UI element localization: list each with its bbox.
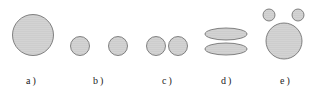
panel-label-b: b ) — [93, 75, 103, 86]
shape-diagram — [0, 0, 318, 96]
panel-label-a: a ) — [26, 75, 36, 86]
small-circle-left — [71, 37, 90, 56]
ellipse-bottom — [205, 43, 247, 55]
head-circle — [266, 23, 302, 59]
adjacent-circle-left — [147, 37, 166, 56]
panel-label-c: c ) — [162, 75, 172, 86]
small-circle-right — [109, 37, 128, 56]
adjacent-circle-right — [169, 37, 188, 56]
panel-d-shapes — [205, 28, 247, 55]
panel-label-e: e ) — [280, 75, 290, 86]
ellipse-top — [205, 28, 247, 40]
panel-label-d: d ) — [221, 75, 231, 86]
panel-c-shapes — [147, 37, 188, 56]
panel-b-shapes — [71, 37, 128, 56]
ear-circle-left — [263, 9, 275, 21]
panel-e-shapes — [263, 9, 304, 59]
large-circle — [13, 15, 54, 56]
ear-circle-right — [292, 9, 304, 21]
panel-a-shapes — [13, 15, 54, 56]
